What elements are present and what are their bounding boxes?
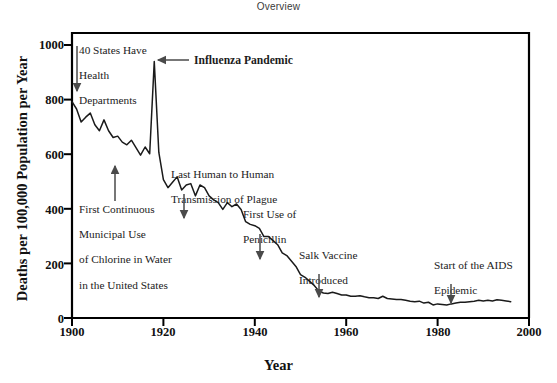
plot-area — [0, 0, 557, 383]
y-ticks — [64, 45, 72, 318]
chart-figure: Overview Deaths per 100,000 Population p… — [0, 0, 557, 383]
annotation-arrows — [77, 46, 451, 303]
x-ticks — [72, 318, 529, 326]
data-series-line — [72, 62, 511, 305]
